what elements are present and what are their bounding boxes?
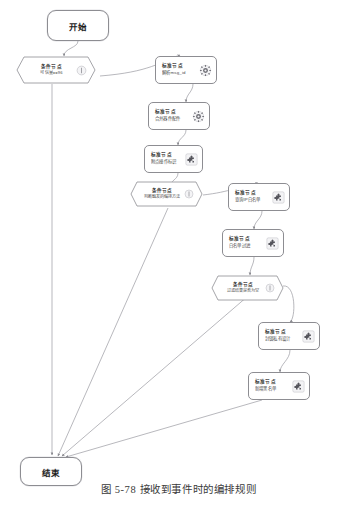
edge-start-to-cond1: [64, 41, 78, 56]
end-node-label: 结束: [42, 466, 61, 478]
condition-node-can-arrange[interactable]: 条件节点 可信量==96: [16, 56, 96, 84]
node-kind-label: 标准节点: [229, 236, 266, 243]
node-detail-label: 查询IP白名单: [235, 197, 272, 204]
node-detail-label: 附点操作标识: [151, 159, 185, 166]
edge-parse-to-source: [186, 84, 193, 102]
edge-whitelist-to-filter: [254, 211, 262, 229]
edge-update-to-end: [66, 400, 262, 457]
edge-block-to-update: [280, 350, 290, 372]
node-detail-label: 过滤结果是否为空: [222, 288, 264, 294]
gear-icon: [199, 64, 212, 77]
condition-icon: [264, 283, 275, 294]
edge-filter-to-cond3: [250, 257, 254, 275]
standard-node-block-mark[interactable]: 标准节点 封锁私有设计: [258, 322, 320, 350]
node-detail-label: 可信量==96: [27, 70, 76, 76]
node-kind-label: 条件节点: [141, 188, 183, 195]
start-node[interactable]: 开始: [47, 10, 109, 41]
node-kind-label: 条件节点: [27, 64, 76, 71]
puzzle-icon: [185, 153, 198, 166]
node-detail-label: 合并器件配件: [155, 116, 192, 123]
node-kind-label: 条件节点: [222, 282, 264, 289]
node-kind-label: 标准节点: [255, 379, 292, 386]
puzzle-icon: [302, 330, 315, 343]
condition-icon: [183, 189, 194, 200]
puzzle-icon: [292, 380, 305, 393]
node-detail-label: 封锁私有设计: [265, 336, 302, 343]
figure-caption: 图 5-78 接收到事件时的编排规则: [0, 481, 357, 496]
node-kind-label: 标准节点: [235, 190, 272, 197]
condition-icon: [76, 65, 87, 76]
gear-icon: [192, 110, 205, 123]
node-kind-label: 标准节点: [151, 152, 185, 159]
standard-node-query-source[interactable]: 标准节点 合并器件配件: [148, 102, 210, 130]
node-detail-label: 新增黑名单: [255, 386, 292, 393]
standard-node-query-whitelist[interactable]: 标准节点 查询IP白名单: [228, 183, 290, 211]
edge-cond2-to-end: [58, 208, 168, 456]
node-detail-label: 判断触发的编排方法: [141, 194, 183, 200]
standard-node-node-tag[interactable]: 标准节点 附点操作标识: [144, 145, 203, 173]
edge-cond3-to-end: [62, 296, 248, 456]
standard-node-filter-whitelist[interactable]: 标准节点 白名单过滤: [222, 229, 284, 257]
node-kind-label: 标准节点: [162, 63, 199, 70]
node-detail-label: 解析msg_id: [162, 70, 199, 77]
node-detail-label: 白名单过滤: [229, 243, 266, 250]
puzzle-icon: [272, 191, 285, 204]
standard-node-update-blacklist[interactable]: 标准节点 新增黑名单: [248, 372, 310, 400]
condition-node-need-block[interactable]: 条件节点 过滤结果是否为空: [211, 275, 284, 301]
node-kind-label: 标准节点: [155, 109, 192, 116]
standard-node-parse-msg[interactable]: 标准节点 解析msg_id: [155, 56, 217, 84]
condition-node-has-rule[interactable]: 条件节点 判断触发的编排方法: [130, 181, 203, 207]
start-node-label: 开始: [69, 20, 88, 32]
edge-source-to-tag: [178, 130, 186, 145]
flowchart-canvas: 开始 条件节点 可信量==96 标准节点 解析msg_id: [0, 0, 357, 508]
edge-cond3-to-block: [283, 286, 294, 322]
node-kind-label: 标准节点: [265, 329, 302, 336]
puzzle-icon: [266, 237, 279, 250]
